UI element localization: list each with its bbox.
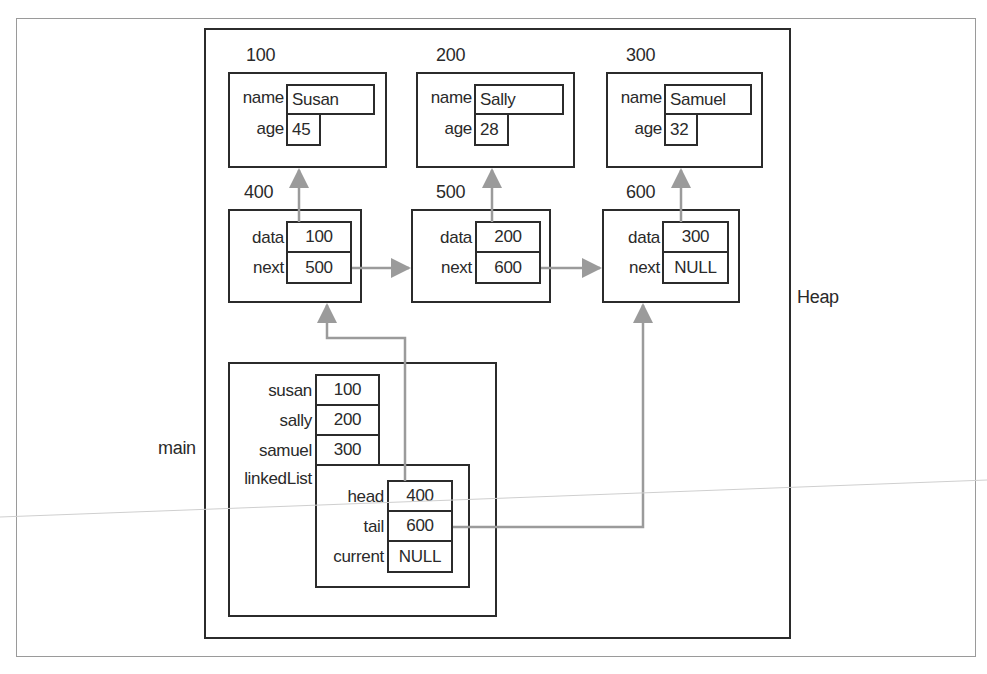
main-label: main — [158, 438, 196, 459]
node-data-label: data — [232, 228, 284, 248]
node-data-field: 200 — [475, 221, 541, 253]
main-var-label-samuel: samuel — [232, 441, 312, 461]
node-address-500: 500 — [436, 182, 465, 203]
person-address-200: 200 — [436, 45, 465, 66]
person-age-label: age — [418, 119, 472, 139]
node-address-600: 600 — [626, 182, 655, 203]
person-address-100: 100 — [246, 45, 275, 66]
node-next-label: next — [420, 258, 472, 278]
person-age-label: age — [230, 119, 284, 139]
node-next-field: 600 — [475, 251, 541, 284]
person-age-field: 45 — [286, 113, 321, 146]
person-name-field: Samuel — [664, 84, 752, 115]
person-name-label: name — [230, 88, 284, 108]
linkedlist-tail-field: 600 — [387, 510, 453, 542]
person-name-label: name — [418, 88, 472, 108]
person-age-field: 28 — [474, 113, 509, 146]
node-data-field: 100 — [286, 221, 352, 253]
person-age-label: age — [608, 119, 662, 139]
linkedlist-current-field: NULL — [387, 540, 453, 573]
linkedlist-head-field: 400 — [387, 480, 453, 512]
main-var-field-susan: 100 — [315, 374, 380, 406]
node-data-label: data — [608, 228, 660, 248]
linkedlist-tail-label: tail — [320, 517, 384, 537]
node-address-400: 400 — [244, 182, 273, 203]
main-var-label-sally: sally — [232, 411, 312, 431]
person-name-field: Susan — [286, 84, 375, 115]
person-name-label: name — [608, 88, 662, 108]
person-age-field: 32 — [664, 113, 698, 146]
person-name-field: Sally — [474, 84, 564, 115]
node-next-label: next — [608, 258, 660, 278]
node-data-field: 300 — [662, 221, 729, 253]
heap-label: Heap — [797, 287, 839, 308]
node-data-label: data — [420, 228, 472, 248]
main-var-field-sally: 200 — [315, 404, 380, 436]
node-next-label: next — [232, 258, 284, 278]
linkedlist-head-label: head — [320, 487, 384, 507]
node-next-field: 500 — [286, 251, 352, 284]
main-var-field-samuel: 300 — [315, 434, 380, 466]
main-var-label-susan: susan — [232, 381, 312, 401]
node-next-field: NULL — [662, 251, 729, 284]
main-var-label-linkedlist: linkedList — [232, 469, 312, 489]
linkedlist-current-label: current — [320, 547, 384, 567]
person-address-300: 300 — [626, 45, 655, 66]
